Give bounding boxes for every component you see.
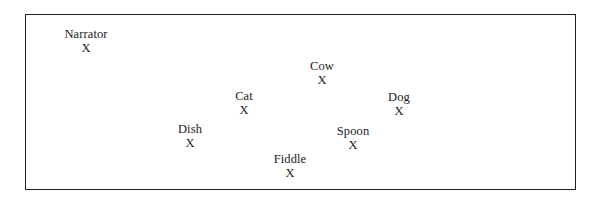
position-marker-dish: DishX <box>178 123 202 150</box>
position-x-mark: X <box>235 104 253 117</box>
position-marker-fiddle: FiddleX <box>274 153 307 180</box>
position-label: Dish <box>178 123 202 136</box>
position-marker-cow: CowX <box>310 60 334 87</box>
position-label: Narrator <box>64 28 107 41</box>
stage-blocking-diagram: NarratorXCowXCatXDogXDishXSpoonXFiddleX <box>0 0 603 204</box>
position-x-mark: X <box>310 74 334 87</box>
position-x-mark: X <box>337 139 369 152</box>
position-label: Cat <box>235 90 253 103</box>
position-x-mark: X <box>274 167 307 180</box>
position-marker-dog: DogX <box>388 91 410 118</box>
position-x-mark: X <box>64 42 107 55</box>
position-label: Cow <box>310 60 334 73</box>
position-x-mark: X <box>178 137 202 150</box>
position-label: Dog <box>388 91 410 104</box>
position-marker-cat: CatX <box>235 90 253 117</box>
position-marker-narrator: NarratorX <box>64 28 107 55</box>
position-marker-spoon: SpoonX <box>337 125 369 152</box>
position-label: Fiddle <box>274 153 307 166</box>
position-label: Spoon <box>337 125 369 138</box>
position-x-mark: X <box>388 105 410 118</box>
